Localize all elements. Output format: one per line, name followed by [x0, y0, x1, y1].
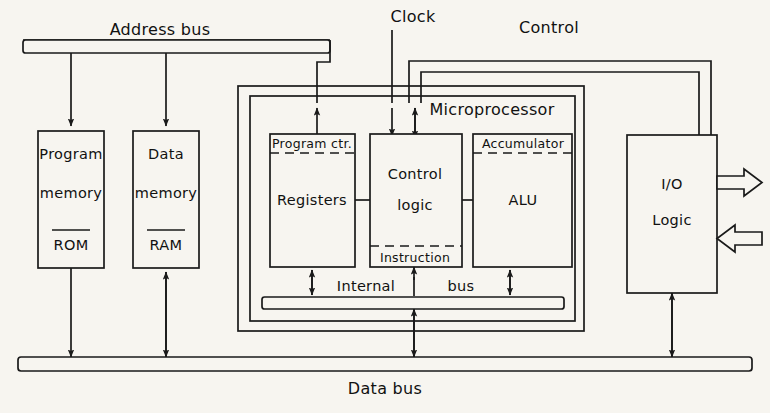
- diagram-canvas: Address bus Clock Control Program memory…: [0, 0, 770, 413]
- data-bus-label: Data bus: [348, 379, 422, 398]
- data-memory-line2: memory: [135, 185, 197, 201]
- io-output-block-arrow: [717, 169, 762, 196]
- io-input-block-arrow: [717, 225, 762, 252]
- control-logic-line2: logic: [397, 197, 433, 213]
- program-memory-rom: ROM: [54, 237, 89, 253]
- control-logic-line1: Control: [388, 166, 443, 182]
- internal-bus-label-part1: Internal: [337, 278, 395, 294]
- clock-label: Clock: [391, 7, 436, 26]
- address-bus-label: Address bus: [110, 20, 211, 39]
- program-counter-label: Program ctr.: [272, 136, 352, 151]
- alu-label: ALU: [509, 192, 538, 208]
- microprocessor-label: Microprocessor: [429, 100, 554, 119]
- accumulator-label: Accumulator: [482, 136, 564, 151]
- io-logic-line1: I/O: [661, 176, 682, 192]
- address-bus-bar: [23, 40, 330, 53]
- internal-bus-label-part2: bus: [448, 278, 475, 294]
- io-logic-line2: Logic: [652, 212, 691, 228]
- control-bus-lines: [409, 61, 711, 135]
- control-label: Control: [519, 18, 579, 37]
- block-diagram-svg: [0, 0, 770, 413]
- program-memory-line2: memory: [40, 185, 102, 201]
- data-memory-line1: Data: [148, 146, 184, 162]
- program-memory-line1: Program: [39, 146, 102, 162]
- instruction-label: Instruction: [380, 250, 450, 265]
- data-memory-ram: RAM: [150, 237, 183, 253]
- internal-bus-bar: [262, 297, 564, 309]
- data-bus-bar: [18, 357, 752, 371]
- registers-label: Registers: [277, 192, 347, 208]
